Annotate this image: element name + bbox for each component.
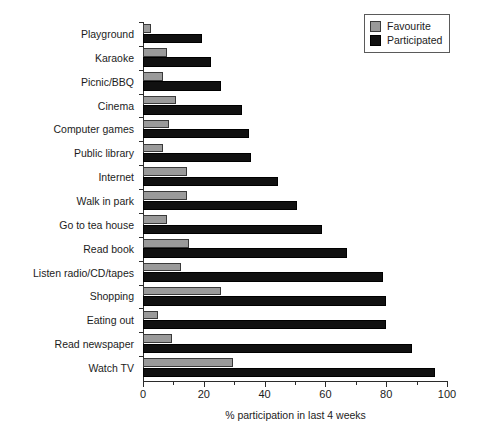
chart-legend: Favourite Participated bbox=[364, 14, 450, 53]
category-row: Walk in park bbox=[143, 189, 447, 213]
y-axis-tick bbox=[139, 285, 143, 286]
legend-label-participated: Participated bbox=[387, 35, 442, 46]
category-label: Internet bbox=[98, 172, 134, 183]
category-row: Eating out bbox=[143, 308, 447, 332]
bar-participated bbox=[143, 368, 435, 377]
y-axis-tick bbox=[139, 237, 143, 238]
x-axis-tick-label: 100 bbox=[438, 389, 456, 400]
bar-participated bbox=[143, 296, 386, 305]
bar-favourite bbox=[143, 24, 151, 33]
bar-favourite bbox=[143, 215, 167, 224]
bar-favourite bbox=[143, 167, 187, 176]
x-axis-tick-major bbox=[265, 381, 266, 387]
category-label: Cinema bbox=[98, 100, 134, 111]
x-axis-tick-minor bbox=[356, 381, 357, 385]
category-row: Read newspaper bbox=[143, 332, 447, 356]
bar-favourite bbox=[143, 358, 233, 367]
category-label: Watch TV bbox=[88, 363, 134, 374]
x-axis-tick-label: 60 bbox=[319, 389, 331, 400]
bar-participated bbox=[143, 225, 322, 234]
category-label: Read newspaper bbox=[55, 339, 134, 350]
legend-item-favourite: Favourite bbox=[370, 19, 442, 33]
x-axis-tick-major bbox=[386, 381, 387, 387]
bar-participated bbox=[143, 272, 383, 281]
favourite-swatch-icon bbox=[370, 21, 381, 32]
bar-participated bbox=[143, 320, 386, 329]
x-axis-tick-label: 40 bbox=[258, 389, 270, 400]
bar-favourite bbox=[143, 287, 221, 296]
category-row: Computer games bbox=[143, 117, 447, 141]
bar-participated bbox=[143, 201, 297, 210]
bar-favourite bbox=[143, 239, 189, 248]
bar-favourite bbox=[143, 48, 167, 57]
y-axis-tick bbox=[139, 308, 143, 309]
plot-area: PlaygroundKaraokePicnic/BBQCinemaCompute… bbox=[143, 22, 447, 380]
category-row: Cinema bbox=[143, 94, 447, 118]
category-label: Public library bbox=[74, 148, 134, 159]
category-label: Picnic/BBQ bbox=[81, 76, 134, 87]
bar-favourite bbox=[143, 311, 158, 320]
bar-participated bbox=[143, 344, 412, 353]
category-row: Picnic/BBQ bbox=[143, 70, 447, 94]
x-axis-tick-major bbox=[325, 381, 326, 387]
category-row: Read book bbox=[143, 237, 447, 261]
category-label: Go to tea house bbox=[59, 220, 134, 231]
y-axis-tick bbox=[139, 213, 143, 214]
bar-participated bbox=[143, 129, 249, 138]
y-axis-tick bbox=[139, 356, 143, 357]
x-axis-tick-minor bbox=[417, 381, 418, 385]
x-axis-tick-major bbox=[447, 381, 448, 387]
bar-favourite bbox=[143, 191, 187, 200]
category-label: Walk in park bbox=[77, 196, 134, 207]
bar-favourite bbox=[143, 144, 163, 153]
bar-participated bbox=[143, 153, 251, 162]
y-axis-tick bbox=[139, 22, 143, 23]
category-row: Shopping bbox=[143, 285, 447, 309]
bar-favourite bbox=[143, 72, 163, 81]
category-row: Listen radio/CD/tapes bbox=[143, 261, 447, 285]
x-axis-tick-label: 20 bbox=[198, 389, 210, 400]
category-label: Eating out bbox=[87, 315, 134, 326]
y-axis-tick bbox=[139, 332, 143, 333]
category-label: Computer games bbox=[53, 124, 134, 135]
x-axis-tick-major bbox=[143, 381, 144, 387]
bar-favourite bbox=[143, 96, 176, 105]
y-axis-tick bbox=[139, 141, 143, 142]
y-axis-tick bbox=[139, 46, 143, 47]
legend-item-participated: Participated bbox=[370, 33, 442, 47]
bar-participated bbox=[143, 34, 202, 43]
category-label: Listen radio/CD/tapes bbox=[33, 267, 134, 278]
bar-participated bbox=[143, 81, 221, 90]
y-axis-tick bbox=[139, 70, 143, 71]
x-axis-tick-minor bbox=[173, 381, 174, 385]
bar-favourite bbox=[143, 334, 172, 343]
participated-swatch-icon bbox=[370, 35, 381, 46]
y-axis-tick bbox=[139, 165, 143, 166]
category-label: Playground bbox=[81, 29, 134, 40]
bar-participated bbox=[143, 105, 242, 114]
y-axis-tick bbox=[139, 117, 143, 118]
x-axis-tick-minor bbox=[295, 381, 296, 385]
category-label: Shopping bbox=[90, 291, 134, 302]
legend-label-favourite: Favourite bbox=[387, 21, 431, 32]
category-label: Karaoke bbox=[95, 53, 134, 64]
x-axis-tick-label: 80 bbox=[380, 389, 392, 400]
category-row: Go to tea house bbox=[143, 213, 447, 237]
horizontal-bar-chart: PlaygroundKaraokePicnic/BBQCinemaCompute… bbox=[0, 0, 484, 445]
category-label: Read book bbox=[83, 243, 134, 254]
x-axis-title: % participation in last 4 weeks bbox=[143, 409, 448, 421]
bar-participated bbox=[143, 57, 211, 66]
x-axis-tick-minor bbox=[234, 381, 235, 385]
y-axis-tick bbox=[139, 94, 143, 95]
category-row: Watch TV bbox=[143, 356, 447, 380]
bar-participated bbox=[143, 248, 347, 257]
x-axis-tick-label: 0 bbox=[140, 389, 146, 400]
x-axis-tick-major bbox=[204, 381, 205, 387]
bar-favourite bbox=[143, 120, 169, 129]
y-axis-tick bbox=[139, 189, 143, 190]
category-row: Internet bbox=[143, 165, 447, 189]
y-axis-tick bbox=[139, 261, 143, 262]
bar-favourite bbox=[143, 263, 181, 272]
category-row: Public library bbox=[143, 141, 447, 165]
bar-participated bbox=[143, 177, 278, 186]
